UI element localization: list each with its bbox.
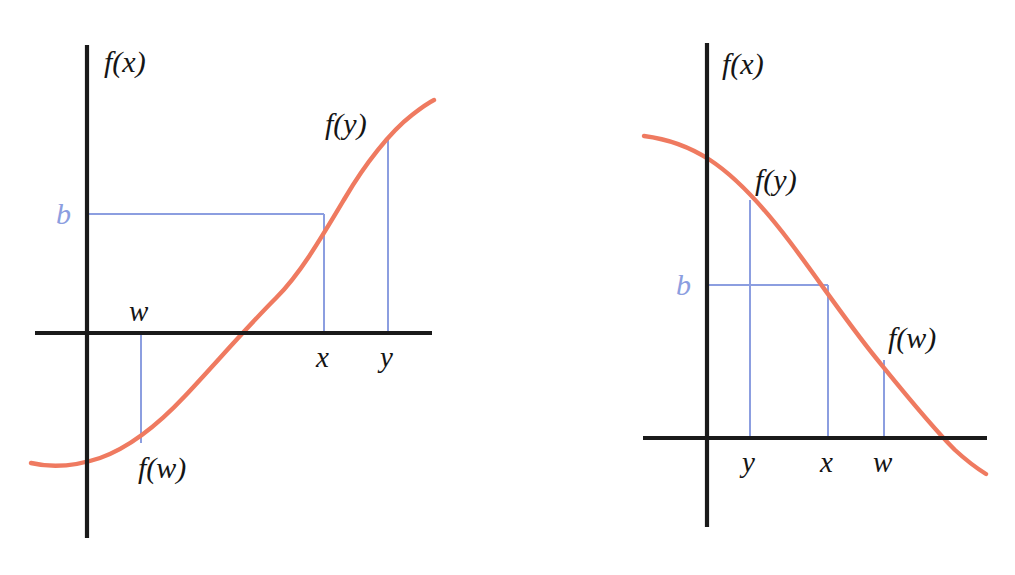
right-function-curve	[644, 136, 986, 474]
left-value-label-fy: f(y)	[325, 107, 367, 141]
right-value-label-fw: f(w)	[888, 321, 936, 355]
right-y-axis-label: f(x)	[722, 47, 764, 81]
left-y-axis-label: f(x)	[104, 45, 146, 79]
right-x-tick-y: y	[739, 446, 755, 478]
right-x-tick-x: x	[819, 446, 833, 478]
left-x-tick-y: y	[377, 341, 393, 373]
left-x-tick-w: w	[129, 295, 149, 327]
left-panel: f(x) b w x y f(w) f(y)	[31, 45, 434, 538]
right-panel: f(x) b y x w f(y) f(w)	[643, 43, 987, 527]
left-function-curve	[31, 100, 434, 466]
figure-root: f(x) b w x y f(w) f(y)	[0, 0, 1015, 575]
right-value-label-fy: f(y)	[755, 163, 797, 197]
left-value-label-fw: f(w)	[138, 451, 186, 485]
right-panel-helper-lines	[708, 200, 884, 438]
right-x-tick-w: w	[873, 446, 893, 478]
function-diagram-svg: f(x) b w x y f(w) f(y)	[0, 0, 1015, 575]
left-level-label-b: b	[56, 197, 71, 230]
left-x-tick-x: x	[315, 341, 329, 373]
right-level-label-b: b	[676, 268, 691, 301]
left-panel-helper-lines	[88, 136, 388, 443]
